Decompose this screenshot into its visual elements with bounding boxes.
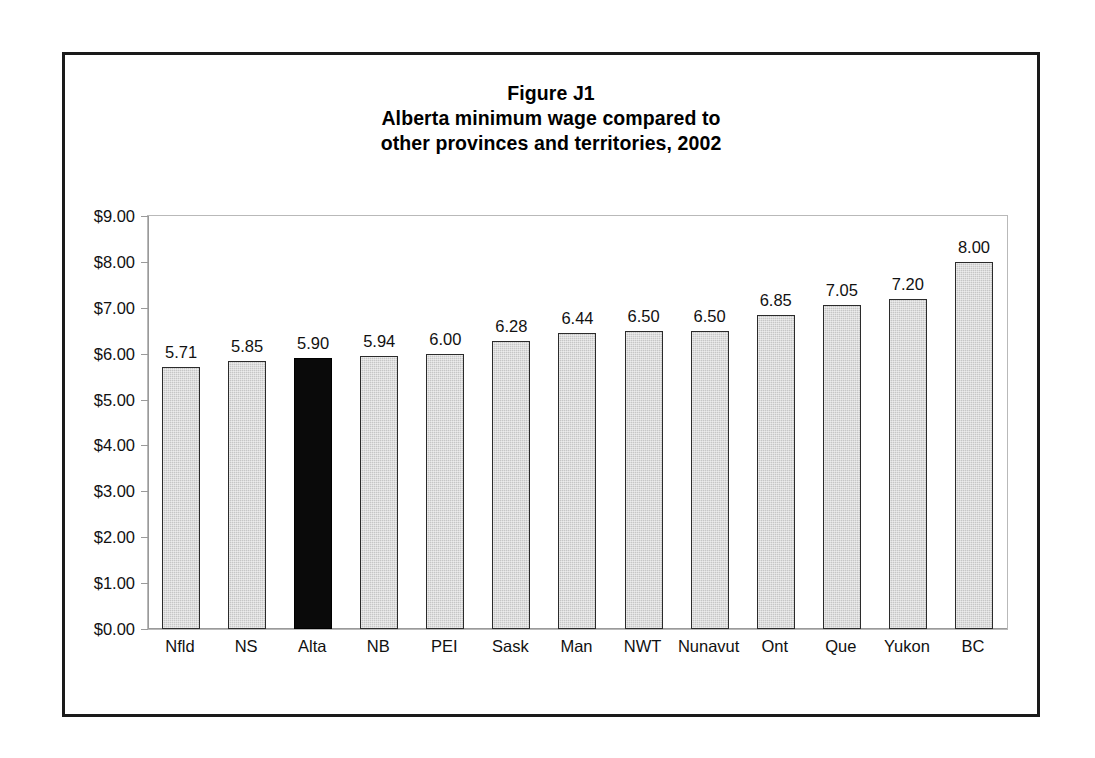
bar-value-label: 6.00 (429, 330, 461, 349)
bars-layer: 5.715.855.905.946.006.286.446.506.506.85… (148, 216, 1007, 629)
bar-slot: 8.00 (941, 216, 1007, 629)
bar-nwt[interactable] (625, 331, 663, 629)
bar-slot: 6.50 (611, 216, 677, 629)
x-axis-label-nwt: NWT (624, 637, 662, 656)
x-axis-label-que: Que (825, 637, 856, 656)
plot-area: $0.00$1.00$2.00$3.00$4.00$5.00$6.00$7.00… (147, 215, 1008, 630)
y-axis-tick-label: $1.00 (94, 574, 135, 593)
bar-value-label: 7.05 (826, 281, 858, 300)
y-axis-tick-label: $5.00 (94, 390, 135, 409)
bar-value-label: 6.50 (694, 307, 726, 326)
y-axis-tick-mark (141, 400, 148, 401)
bar-value-label: 5.94 (363, 332, 395, 351)
bar-pei[interactable] (426, 354, 464, 629)
x-axis-label-ont: Ont (761, 637, 788, 656)
x-axis-categories: NfldNSAltaNBPEISaskManNWTNunavutOntQueYu… (147, 637, 1008, 665)
y-axis-tick-label: $9.00 (94, 207, 135, 226)
y-axis-tick-mark (141, 583, 148, 584)
y-axis-tick-label: $2.00 (94, 528, 135, 547)
y-axis-tick-label: $7.00 (94, 298, 135, 317)
bar-slot: 6.28 (478, 216, 544, 629)
bar-slot: 6.50 (677, 216, 743, 629)
bar-nb[interactable] (360, 356, 398, 629)
y-axis-tick-mark (141, 491, 148, 492)
x-axis-label-bc: BC (961, 637, 984, 656)
bar-slot: 6.85 (743, 216, 809, 629)
page-title: Figure J1 Alberta minimum wage compared … (65, 81, 1037, 156)
y-axis-tick-mark (141, 262, 148, 263)
bar-slot: 7.20 (875, 216, 941, 629)
title-line-1: Figure J1 (65, 81, 1037, 106)
bar-slot: 7.05 (809, 216, 875, 629)
y-axis-tick-label: $6.00 (94, 344, 135, 363)
bar-slot: 5.71 (148, 216, 214, 629)
y-axis-tick-label: $3.00 (94, 482, 135, 501)
x-axis-label-sask: Sask (492, 637, 529, 656)
y-axis-tick-mark (141, 216, 148, 217)
y-axis-tick-mark (141, 445, 148, 446)
bar-slot: 5.94 (346, 216, 412, 629)
y-axis-tick-mark (141, 537, 148, 538)
bar-sask[interactable] (492, 341, 530, 629)
x-axis-label-man: Man (560, 637, 592, 656)
x-axis-label-pei: PEI (431, 637, 458, 656)
x-axis-label-yukon: Yukon (884, 637, 930, 656)
bar-slot: 5.90 (280, 216, 346, 629)
figure-frame: Figure J1 Alberta minimum wage compared … (62, 52, 1040, 717)
bar-slot: 6.00 (412, 216, 478, 629)
bar-value-label: 6.85 (760, 291, 792, 310)
y-axis-tick-mark (141, 629, 148, 630)
bar-slot: 6.44 (544, 216, 610, 629)
bar-value-label: 5.90 (297, 334, 329, 353)
bar-nfld[interactable] (162, 367, 200, 629)
bar-alta[interactable] (294, 358, 332, 629)
bar-value-label: 6.28 (495, 317, 527, 336)
bar-value-label: 7.20 (892, 275, 924, 294)
title-line-2: Alberta minimum wage compared to (65, 106, 1037, 131)
bar-ns[interactable] (228, 361, 266, 629)
bar-que[interactable] (823, 305, 861, 629)
bar-yukon[interactable] (889, 299, 927, 629)
bar-bc[interactable] (955, 262, 993, 629)
bar-value-label: 5.85 (231, 337, 263, 356)
x-axis-label-ns: NS (235, 637, 258, 656)
bar-value-label: 6.50 (628, 307, 660, 326)
y-axis-tick-mark (141, 308, 148, 309)
bar-slot: 5.85 (214, 216, 280, 629)
title-line-3: other provinces and territories, 2002 (65, 131, 1037, 156)
bar-man[interactable] (558, 333, 596, 629)
y-axis-tick-label: $8.00 (94, 252, 135, 271)
x-axis-label-alta: Alta (298, 637, 326, 656)
bar-value-label: 5.71 (165, 343, 197, 362)
x-axis-label-nunavut: Nunavut (678, 637, 739, 656)
y-axis-tick-label: $4.00 (94, 436, 135, 455)
x-axis-label-nfld: Nfld (165, 637, 194, 656)
bar-value-label: 6.44 (561, 309, 593, 328)
bar-value-label: 8.00 (958, 238, 990, 257)
bar-nunavut[interactable] (691, 331, 729, 629)
bar-ont[interactable] (757, 315, 795, 629)
x-axis-label-nb: NB (367, 637, 390, 656)
y-axis-tick-label: $0.00 (94, 620, 135, 639)
y-axis-tick-mark (141, 354, 148, 355)
